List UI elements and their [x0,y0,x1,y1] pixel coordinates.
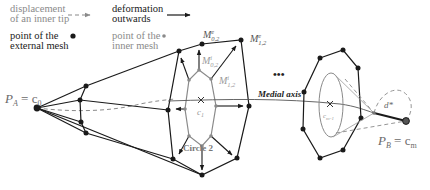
legend-internal-line2: inner mesh [112,41,160,51]
legend-internal-point-icon [162,34,166,38]
legend-displacement-line2: of an inner tip [10,14,69,24]
legend-internal-point-label: point of the inner mesh [112,31,160,51]
external-mesh-left [37,51,202,175]
d-star-label: d* [384,100,394,110]
pb-point [403,118,410,125]
legend-deformation-line2: outwards [112,14,163,24]
pb-label: PB = cm [377,133,417,150]
ellipsis: ••• [273,68,285,80]
pa-label: PA = c0 [4,91,41,108]
external-octagon-2 [303,50,361,158]
m12i-label: Mi1,2 [218,74,236,88]
circle-label: Circle 2 [183,143,214,153]
legend-displacement-label: displacement of an inner tip [10,4,69,24]
m12e-label: Me1,2 [249,32,267,46]
m02e-label: Me0,2 [202,28,220,42]
tip-segment [374,113,406,121]
cprev-label: cm-1 [323,112,334,121]
cross-prev-icon [327,101,333,107]
mesh-deformation-diagram: PA = c0 PB = cm Me0,2 Me1,2 Mi0,2 Mi1,2 … [0,0,430,190]
legend-deformation-label: deformation outwards [112,4,163,24]
legend-external-point-icon [70,33,75,38]
legend-external-point-label: point of the external mesh [10,31,69,51]
medial-axis-label: Medial axis [257,89,302,99]
c1-label: c1 [197,107,204,118]
tip-point [372,111,376,115]
m02i-label: Mi0,2 [201,54,219,68]
external-points-right [301,48,364,161]
legend-external-line2: external mesh [10,41,69,51]
